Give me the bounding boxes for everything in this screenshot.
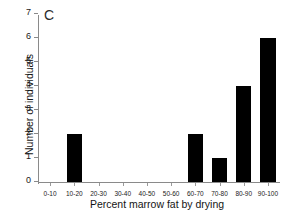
y-tick: 1 [34,157,38,158]
bar [188,134,203,182]
y-axis-line [38,15,39,184]
x-tick [220,183,221,186]
bar [67,134,82,182]
y-tick: 5 [34,61,38,62]
x-tick [123,183,124,186]
y-tick: 7 [34,13,38,14]
y-tick-label: 2 [26,127,31,137]
y-tick-label: 6 [26,31,31,41]
x-tick-label: 90-100 [258,190,278,198]
plot-area: 01234567 0-1010-2020-3030-4040-5050-6060… [38,15,280,183]
y-tick-label: 1 [26,151,31,161]
x-tick-label: 0-10 [44,190,57,198]
y-tick-label: 3 [26,103,31,113]
bar [212,158,227,182]
x-tick-label: 80-90 [235,190,252,198]
chart-figure: C Number of individuals Percent marrow f… [0,0,285,221]
y-tick: 3 [34,109,38,110]
x-tick-label: 60-70 [187,190,204,198]
x-axis-title: Percent marrow fat by drying [34,198,280,210]
x-tick [147,183,148,186]
y-tick: 6 [34,37,38,38]
y-tick-label: 5 [26,55,31,65]
x-tick [244,183,245,186]
x-tick-label: 70-80 [211,190,228,198]
y-tick: 2 [34,133,38,134]
y-tick-label: 7 [26,7,31,17]
y-tick-label: 0 [26,175,31,185]
x-tick-label: 20-30 [90,190,107,198]
x-tick-label: 50-60 [163,190,180,198]
x-tick-label: 30-40 [114,190,131,198]
bar [260,38,275,182]
x-tick-label: 40-50 [139,190,156,198]
x-tick [50,183,51,186]
y-tick: 4 [34,85,38,86]
x-tick [171,183,172,186]
y-tick-label: 4 [26,79,31,89]
x-tick-label: 10-20 [66,190,83,198]
y-tick: 0 [34,181,38,182]
bar [236,86,251,182]
x-tick [99,183,100,186]
x-tick [268,183,269,186]
x-tick [74,183,75,186]
x-tick [195,183,196,186]
